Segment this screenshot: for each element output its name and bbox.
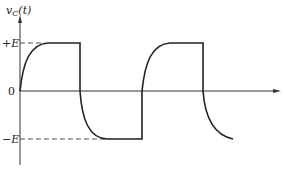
zero-label: 0 bbox=[8, 85, 15, 98]
plus-e-label: +E bbox=[2, 37, 19, 50]
minus-e-label: −E bbox=[2, 133, 19, 146]
y-axis-label: vC(t) bbox=[6, 4, 31, 18]
x-axis-arrow-icon bbox=[273, 89, 281, 93]
waveform-diagram: vC(t) +E 0 −E bbox=[0, 0, 284, 175]
